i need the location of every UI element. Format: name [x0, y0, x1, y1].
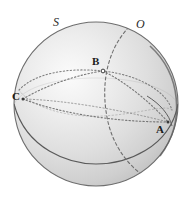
point-marker-C [22, 98, 25, 101]
point-marker-B [101, 69, 105, 73]
label-point-B: B [92, 56, 99, 67]
point-marker-A [167, 121, 170, 124]
sphere-diagram-svg [0, 0, 193, 203]
label-point-A: A [156, 124, 164, 135]
label-S: S [53, 16, 59, 28]
sphere-figure: S O B C A [0, 0, 193, 203]
sphere-body [14, 22, 178, 186]
label-O: O [136, 18, 145, 30]
label-point-C: C [12, 91, 20, 102]
